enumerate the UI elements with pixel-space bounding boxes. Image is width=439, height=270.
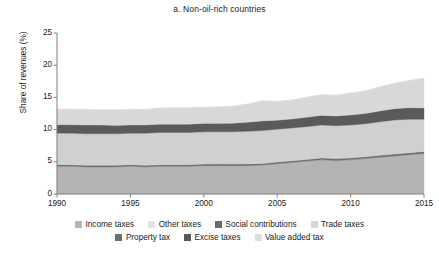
legend-label: Other taxes	[159, 220, 201, 229]
legend-swatch-icon	[184, 234, 191, 241]
x-tick-label: 2010	[331, 199, 371, 208]
legend-label: Social contributions	[226, 220, 297, 229]
legend-label: Trade taxes	[321, 220, 364, 229]
legend-item[interactable]: Social contributions	[215, 220, 297, 229]
legend-row: Property taxExcise taxesValue added tax	[0, 233, 439, 242]
legend-row: Income taxesOther taxesSocial contributi…	[0, 220, 439, 229]
chart-legend: Income taxesOther taxesSocial contributi…	[0, 220, 439, 270]
legend-item[interactable]: Other taxes	[148, 220, 201, 229]
legend-label: Income taxes	[86, 220, 135, 229]
legend-swatch-icon	[75, 221, 82, 228]
legend-label: Property tax	[126, 233, 170, 242]
figure-panel: a. Non-oil-rich countries Share of reven…	[0, 0, 439, 270]
legend-item[interactable]: Value added tax	[255, 233, 324, 242]
x-tick-label: 1995	[110, 199, 150, 208]
legend-swatch-icon	[115, 234, 122, 241]
legend-item[interactable]: Excise taxes	[184, 233, 240, 242]
legend-swatch-icon	[148, 221, 155, 228]
x-tick-label: 2000	[184, 199, 224, 208]
legend-item[interactable]: Trade taxes	[311, 220, 364, 229]
legend-swatch-icon	[255, 234, 262, 241]
legend-swatch-icon	[215, 221, 222, 228]
plot-area-wrapper: Share of revenues (%) 0510152025 1990199…	[0, 0, 439, 218]
legend-item[interactable]: Property tax	[115, 233, 170, 242]
x-tick-label: 2015	[404, 199, 439, 208]
legend-item[interactable]: Income taxes	[75, 220, 134, 229]
x-axis-tick-labels: 199019952000200520102015	[0, 0, 439, 218]
legend-label: Excise taxes	[195, 233, 241, 242]
legend-swatch-icon	[311, 221, 318, 228]
x-tick-label: 2005	[257, 199, 297, 208]
x-tick-label: 1990	[37, 199, 77, 208]
legend-label: Value added tax	[265, 233, 324, 242]
